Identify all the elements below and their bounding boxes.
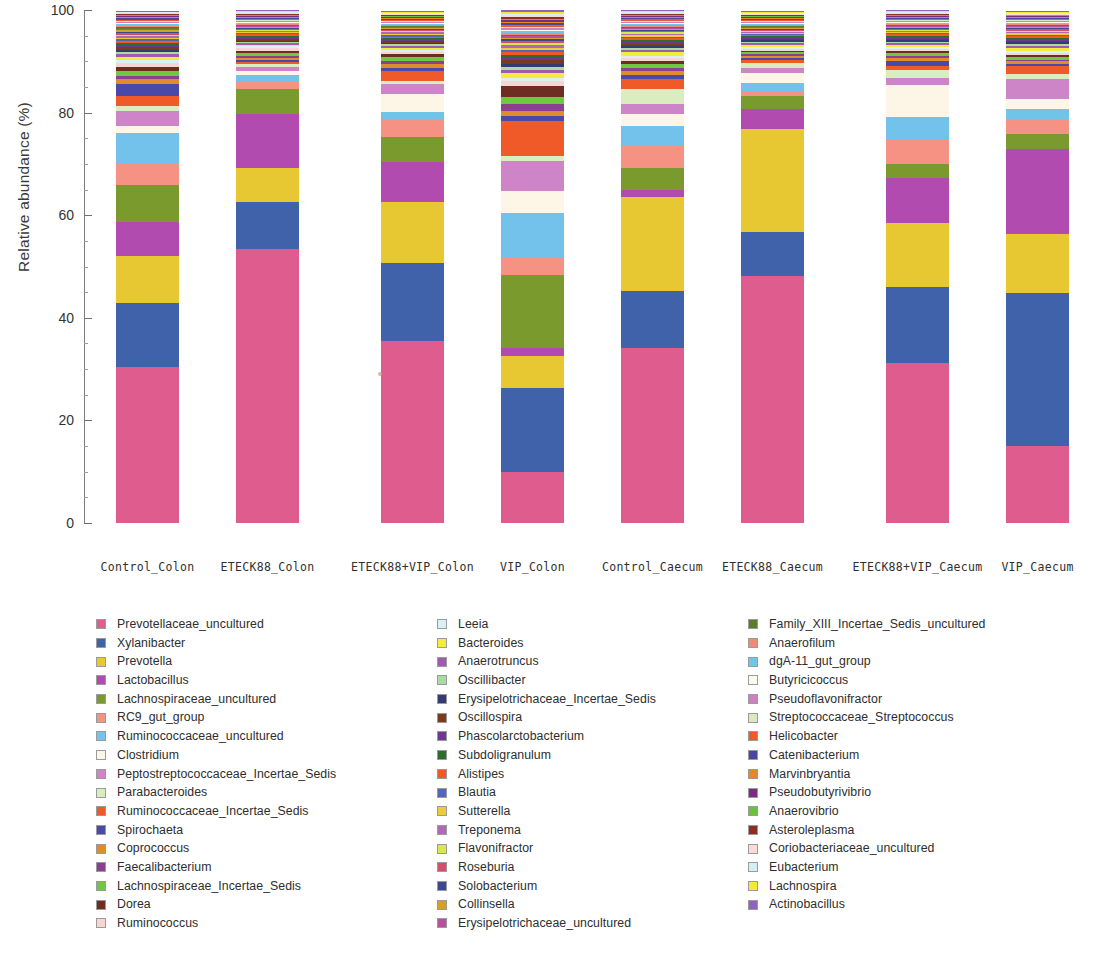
legend-item[interactable]: Blautia	[437, 783, 697, 802]
legend-item[interactable]: Clostridium	[96, 746, 396, 765]
legend-item[interactable]: Ruminococcaceae_uncultured	[96, 727, 396, 746]
legend-item[interactable]: Bacteroides	[437, 634, 697, 653]
legend-item[interactable]: Erysipelotrichaceae_Incertae_Sedis	[437, 690, 697, 709]
legend-item[interactable]: Actinobacillus	[748, 895, 1088, 914]
y-tick-label-100: 100	[20, 2, 74, 18]
legend-item[interactable]: Coriobacteriaceae_uncultured	[748, 839, 1088, 858]
legend-item-label: Faecalibacterium	[117, 858, 211, 877]
bar-segment	[116, 367, 179, 523]
legend-item[interactable]: Faecalibacterium	[96, 858, 396, 877]
legend-item[interactable]: Spirochaeta	[96, 821, 396, 840]
legend-item[interactable]: Prevotellaceae_uncultured	[96, 615, 396, 634]
legend-item-label: Prevotella	[117, 652, 172, 671]
legend-item[interactable]: Flavonifractor	[437, 839, 697, 858]
legend-item[interactable]: Collinsella	[437, 895, 697, 914]
bar-segment	[501, 388, 564, 472]
legend-swatch-icon	[437, 713, 447, 723]
x-axis-label-vip-colon: VIP_Colon	[500, 560, 565, 574]
legend-item[interactable]: Oscillospira	[437, 708, 697, 727]
legend-item[interactable]: Anaerovibrio	[748, 802, 1088, 821]
legend-item[interactable]: Butyricicoccus	[748, 671, 1088, 690]
y-minor-tick	[84, 497, 88, 498]
y-minor-tick	[84, 395, 88, 396]
legend-item[interactable]: Oscillibacter	[437, 671, 697, 690]
legend-item[interactable]: RC9_gut_group	[96, 708, 396, 727]
legend-swatch-icon	[96, 675, 106, 685]
legend-item[interactable]: Subdoligranulum	[437, 746, 697, 765]
legend-swatch-icon	[96, 713, 106, 723]
legend-item[interactable]: Roseburia	[437, 858, 697, 877]
legend-item[interactable]: Anaerotruncus	[437, 652, 697, 671]
bar-control-colon[interactable]	[116, 11, 179, 523]
legend-item-label: Ruminococcus	[117, 914, 198, 933]
legend-item[interactable]: Erysipelotrichaceae_uncultured	[437, 914, 697, 933]
legend-item[interactable]: Ruminococcaceae_Incertae_Sedis	[96, 802, 396, 821]
bar-segment	[381, 119, 444, 137]
legend-item[interactable]: Streptococcaceae_Streptococcus	[748, 708, 1088, 727]
bar-segment	[621, 79, 684, 89]
legend-item-label: Flavonifractor	[458, 839, 533, 858]
legend-item-label: Ruminococcaceae_Incertae_Sedis	[117, 802, 309, 821]
legend-item[interactable]: Prevotella	[96, 652, 396, 671]
legend-item[interactable]: Parabacteroides	[96, 783, 396, 802]
legend-swatch-icon	[437, 694, 447, 704]
legend-swatch-icon	[96, 900, 106, 910]
legend-item-label: Lachnospira	[769, 877, 837, 896]
legend-item[interactable]: Phascolarctobacterium	[437, 727, 697, 746]
legend-item[interactable]: Family_XIII_Incertae_Sedis_uncultured	[748, 615, 1088, 634]
legend-item[interactable]: Dorea	[96, 895, 396, 914]
legend-item[interactable]: Lachnospiraceae_uncultured	[96, 690, 396, 709]
bar-segment	[501, 472, 564, 523]
legend-swatch-icon	[748, 769, 758, 779]
legend-item[interactable]: Anaerofilum	[748, 634, 1088, 653]
bar-segment	[116, 222, 179, 257]
bar-vip-colon[interactable]	[501, 10, 564, 523]
legend-swatch-icon	[96, 881, 106, 891]
bar-vip-caecum[interactable]	[1006, 11, 1069, 523]
legend-item[interactable]: Ruminococcus	[96, 914, 396, 933]
y-tick-80	[84, 113, 92, 114]
x-axis-label-control-colon: Control_Colon	[101, 560, 195, 574]
legend-swatch-icon	[748, 713, 758, 723]
legend-item-label: Roseburia	[458, 858, 515, 877]
bar-segment	[621, 114, 684, 126]
legend-item[interactable]: Lachnospira	[748, 877, 1088, 896]
legend-item[interactable]: Helicobacter	[748, 727, 1088, 746]
legend-item[interactable]: Leeia	[437, 615, 697, 634]
legend-item-label: Helicobacter	[769, 727, 838, 746]
legend-swatch-icon	[437, 769, 447, 779]
legend-item[interactable]: Catenibacterium	[748, 746, 1088, 765]
legend-swatch-icon	[437, 619, 447, 629]
bar-eteck88-colon[interactable]	[236, 10, 299, 523]
legend-item[interactable]: Peptostreptococcaceae_Incertae_Sedis	[96, 765, 396, 784]
bar-eteck88-vip-caecum[interactable]	[886, 10, 949, 523]
bar-segment	[1006, 99, 1069, 109]
legend-item[interactable]: Xylanibacter	[96, 634, 396, 653]
legend-item[interactable]: Alistipes	[437, 765, 697, 784]
legend-item[interactable]: Marvinbryantia	[748, 765, 1088, 784]
legend-item[interactable]: Treponema	[437, 821, 697, 840]
y-minor-tick	[84, 36, 88, 37]
y-minor-tick	[84, 369, 88, 370]
legend-swatch-icon	[96, 788, 106, 798]
legend-item[interactable]: Lactobacillus	[96, 671, 396, 690]
legend-item-label: Subdoligranulum	[458, 746, 551, 765]
bar-eteck88-vip-colon[interactable]	[381, 11, 444, 524]
bar-control-caecum[interactable]	[621, 10, 684, 523]
legend-item-label: Spirochaeta	[117, 821, 183, 840]
legend-item[interactable]: Pseudobutyrivibrio	[748, 783, 1088, 802]
legend-item[interactable]: Eubacterium	[748, 858, 1088, 877]
bar-segment	[501, 356, 564, 388]
legend-item[interactable]: Asteroleplasma	[748, 821, 1088, 840]
y-minor-tick	[84, 164, 88, 165]
legend-swatch-icon	[96, 844, 106, 854]
legend-item[interactable]: Pseudoflavonifractor	[748, 690, 1088, 709]
legend-swatch-icon	[96, 750, 106, 760]
legend-swatch-icon	[748, 825, 758, 835]
bar-eteck88-caecum[interactable]	[741, 11, 804, 523]
legend-item[interactable]: Solobacterium	[437, 877, 697, 896]
legend-item[interactable]: dgA-11_gut_group	[748, 652, 1088, 671]
legend-item[interactable]: Sutterella	[437, 802, 697, 821]
legend-item[interactable]: Lachnospiraceae_Incertae_Sedis	[96, 877, 396, 896]
legend-item[interactable]: Coprococcus	[96, 839, 396, 858]
